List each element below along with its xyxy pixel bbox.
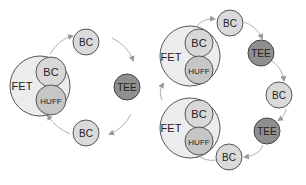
right-node-tee-2: TEE — [254, 118, 280, 144]
left-fet-group: FET BC HUFF — [10, 56, 70, 116]
arrow-tee-to-bc — [245, 145, 263, 157]
left-node-bc-top: BC — [73, 29, 99, 55]
arrow-bc-to-tee — [112, 38, 133, 60]
svg-text:BC: BC — [79, 128, 93, 139]
arrow-fet-to-fet — [160, 84, 163, 100]
svg-text:TEE: TEE — [251, 48, 271, 59]
diagram-canvas: FET BC HUFF BC TEE BC FET BC HUFF — [0, 0, 306, 185]
arrow-tee-to-bc — [110, 114, 131, 134]
svg-text:TEE: TEE — [117, 82, 137, 93]
svg-text:BC: BC — [79, 37, 93, 48]
arrow-bc-to-tee — [279, 109, 286, 120]
svg-text:FET: FET — [161, 122, 182, 134]
right-node-bc-2: BC — [266, 82, 292, 108]
arrow-bc-to-tee — [244, 22, 262, 38]
arrow-tee-to-bc — [272, 61, 284, 80]
svg-text:BC: BC — [223, 18, 237, 29]
left-node-bc-bottom: BC — [73, 120, 99, 146]
arrow-bc-to-fet — [48, 116, 70, 134]
right-fet-bottom-group: FET BC HUFF — [160, 98, 220, 158]
fet-label: FET — [12, 80, 33, 92]
svg-text:HUFF: HUFF — [188, 138, 209, 147]
right-fet-top-group: FET BC HUFF — [160, 26, 220, 86]
svg-text:BC: BC — [191, 37, 206, 49]
right-node-bc-3: BC — [216, 144, 242, 170]
svg-text:BC: BC — [272, 90, 286, 101]
svg-text:TEE: TEE — [257, 126, 277, 137]
arrow-fet-to-bc — [197, 19, 214, 26]
svg-text:FET: FET — [161, 51, 182, 63]
arrow-fet-to-bc — [50, 36, 72, 54]
svg-text:BC: BC — [222, 152, 236, 163]
svg-text:HUFF: HUFF — [188, 67, 209, 76]
right-node-tee-1: TEE — [248, 40, 274, 66]
right-node-bc-1: BC — [217, 10, 243, 36]
huff-inner-label: HUFF — [40, 97, 61, 106]
svg-text:BC: BC — [191, 108, 206, 120]
bc-inner-label: BC — [43, 66, 58, 78]
left-node-tee: TEE — [114, 74, 140, 100]
